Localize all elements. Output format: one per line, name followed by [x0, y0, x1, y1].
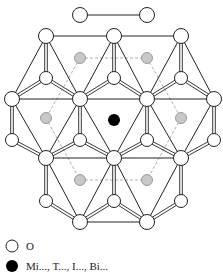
oxygen-anion-icon: [73, 92, 88, 107]
oxygen-anion-icon: [174, 29, 189, 44]
oxygen-anion-icon: [107, 151, 122, 166]
oxygen-anion-icon: [208, 134, 221, 147]
oxygen-anion-icon: [174, 151, 189, 166]
oxygen-anion-icon: [207, 92, 222, 107]
black-cation-icon: [108, 114, 120, 126]
oxygen-anion-icon: [108, 195, 121, 208]
oxygen-anion-icon: [40, 72, 53, 85]
oxygen-anion-icon: [140, 92, 155, 107]
crystal-structure-diagram: [0, 0, 223, 240]
legend-item-oxygen: O: [5, 239, 34, 253]
oxygen-anion-icon: [141, 134, 154, 147]
oxygen-anion-icon: [73, 8, 88, 23]
open-circle-icon: [5, 239, 19, 253]
oxygen-anion-icon: [140, 215, 155, 230]
gray-cation-icon: [41, 113, 52, 124]
oxygen-anion-icon: [6, 134, 19, 147]
oxygen-anion-icon: [107, 29, 122, 44]
oxygen-anion-icon: [74, 134, 87, 147]
gray-cation-icon: [75, 53, 86, 64]
gray-cation-icon: [142, 175, 153, 186]
oxygen-anion-icon: [40, 195, 53, 208]
oxygen-anion-icon: [108, 72, 121, 85]
oxygen-anion-icon: [39, 29, 54, 44]
oxygen-anion-icon: [175, 72, 188, 85]
legend-label-oxygen: O: [26, 240, 34, 252]
gray-cation-icon: [142, 53, 153, 64]
oxygen-anion-icon: [39, 151, 54, 166]
oxygen-anion-icon: [73, 215, 88, 230]
oxygen-anion-icon: [175, 195, 188, 208]
oxygen-anion-icon: [140, 8, 155, 23]
oxygen-anion-icon: [5, 92, 20, 107]
black-circle-icon: [5, 259, 19, 273]
gray-cation-icon: [176, 113, 187, 124]
gray-cation-icon: [75, 175, 86, 186]
legend-label-metal: Mi..., T..., I..., Bi...: [26, 260, 108, 272]
legend-item-metal: Mi..., T..., I..., Bi...: [5, 259, 108, 273]
